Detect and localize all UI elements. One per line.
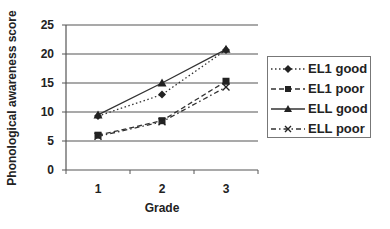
y-tick-label: 5 xyxy=(47,134,54,148)
dashed-square-icon xyxy=(271,82,307,96)
x-tick-label: 1 xyxy=(95,182,102,196)
legend-item-ell-poor: ELL poor xyxy=(268,119,370,139)
legend-item-el1-poor: EL1 poor xyxy=(268,79,370,99)
dashdot-x-icon xyxy=(271,122,307,136)
legend-item-el1-good: EL1 good xyxy=(268,59,370,79)
x-tick-label: 3 xyxy=(223,182,230,196)
axes xyxy=(62,25,258,174)
legend-label: EL1 good xyxy=(308,61,367,76)
y-axis-title: Phonological awareness score xyxy=(5,10,19,186)
y-tick-label: 0 xyxy=(47,163,54,177)
y-tick-label: 25 xyxy=(41,18,55,32)
x-tick-labels: 123 xyxy=(95,182,230,196)
dotted-diamond-icon xyxy=(271,62,307,76)
legend-item-ell-good: ELL good xyxy=(268,99,370,119)
data-series xyxy=(94,45,231,140)
solid-triangle-icon xyxy=(271,102,307,116)
legend-label: EL1 poor xyxy=(308,81,364,96)
y-tick-label: 20 xyxy=(41,47,55,61)
x-axis-title: Grade xyxy=(145,201,180,215)
y-tick-label: 15 xyxy=(41,76,55,90)
y-tick-label: 10 xyxy=(41,105,55,119)
series-el1-poor xyxy=(95,78,230,139)
legend-label: ELL poor xyxy=(308,121,365,136)
y-tick-labels: 0510152025 xyxy=(41,18,55,177)
chart-legend: EL1 good EL1 poor ELL good ELL poor xyxy=(267,56,371,138)
series-ell-good xyxy=(94,45,231,119)
x-tick-label: 2 xyxy=(159,182,166,196)
legend-label: ELL good xyxy=(308,101,368,116)
